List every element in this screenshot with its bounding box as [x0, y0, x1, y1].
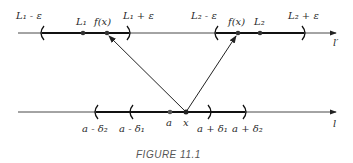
label-L2: L₂ [253, 16, 265, 27]
label-a-plus-delta1: a + δ₁ [197, 123, 228, 134]
label-L1: L₁ [75, 16, 87, 27]
label-x: x [183, 117, 189, 128]
figure-caption: FIGURE 11.1 [136, 149, 201, 160]
fx-point-2 [236, 31, 241, 36]
label-l-prime: l′ [333, 37, 339, 48]
L1-point [81, 31, 86, 36]
figure-diagram: L₁ - ε L₁ f(x) L₁ + ε L₂ - ε f(x) L₂ L₂ … [0, 0, 353, 163]
label-L1-minus-eps: L₁ - ε [15, 10, 42, 21]
label-l: l [333, 118, 336, 129]
label-L2-minus-eps: L₂ - ε [190, 10, 217, 21]
label-L1-plus-eps: L₁ + ε [122, 10, 154, 21]
L2-point [258, 31, 263, 36]
label-L2-plus-eps: L₂ + ε [287, 10, 319, 21]
label-a-minus-delta2: a - δ₂ [82, 123, 108, 134]
label-fx-1: f(x) [93, 16, 111, 27]
map-arrow-right [186, 36, 236, 112]
label-a: a [166, 117, 172, 128]
label-a-minus-delta1: a - δ₁ [119, 123, 145, 134]
map-arrow-left [109, 36, 186, 112]
fx-point-1 [105, 31, 110, 36]
label-fx-2: f(x) [227, 16, 245, 27]
label-a-plus-delta2: a + δ₂ [232, 123, 263, 134]
a-point [168, 110, 173, 115]
